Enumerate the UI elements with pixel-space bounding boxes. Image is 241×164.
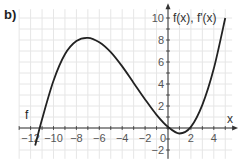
x-tick-label: 4 — [211, 132, 217, 144]
x-tick-label: −4 — [116, 132, 129, 144]
x-tick-label: −6 — [93, 132, 106, 144]
y-tick-label: 8 — [158, 34, 164, 46]
curve-f — [35, 18, 225, 146]
y-axis-arrow-icon — [166, 3, 171, 9]
x-axis-label: x — [227, 112, 233, 126]
y-axis-label: f(x), f'(x) — [173, 11, 217, 25]
y-tick-label: 10 — [152, 12, 164, 24]
x-tick-label: 2 — [188, 132, 194, 144]
curve-label-f: f — [25, 108, 29, 122]
y-tick-label: 6 — [158, 56, 164, 68]
function-graph: −12−10−8−6−4−2024−2246810 f f(x), f'(x) … — [0, 0, 241, 164]
y-tick-label: 2 — [158, 100, 164, 112]
y-tick-label: −2 — [151, 144, 164, 156]
x-tick-label: −2 — [139, 132, 152, 144]
x-tick-label: −8 — [70, 132, 83, 144]
x-tick-label: 0 — [160, 132, 166, 144]
y-tick-label: 4 — [158, 78, 164, 90]
x-tick-label: −10 — [44, 132, 63, 144]
x-axis-arrow-icon — [232, 126, 238, 131]
